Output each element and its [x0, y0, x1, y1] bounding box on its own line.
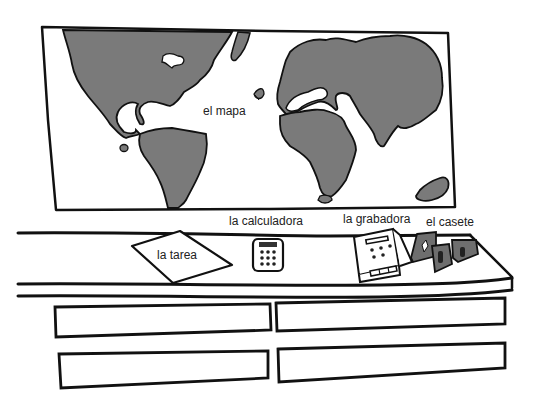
- cassette-label: el casete: [426, 215, 474, 229]
- calculator-label: la calculadora: [229, 214, 303, 228]
- answer-box-top-right: [276, 298, 505, 331]
- map-label: el mapa: [203, 104, 246, 118]
- world-map: [42, 27, 455, 210]
- illustration: [0, 0, 541, 404]
- answer-box-bottom-left: [59, 351, 268, 388]
- answer-box-bottom-right: [278, 343, 505, 382]
- calculator-icon: [253, 239, 283, 271]
- homework-label: la tarea: [157, 248, 197, 262]
- recorder-label: la grabadora: [343, 212, 410, 226]
- cassettes-icon: [411, 232, 478, 272]
- answer-box-top-left: [55, 304, 271, 337]
